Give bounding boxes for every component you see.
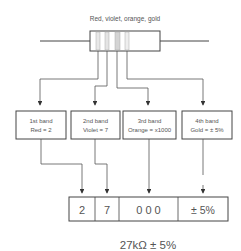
band-1-value: Red = 2 [30, 127, 52, 133]
band-box-1 [16, 111, 66, 139]
band-box-4 [182, 111, 232, 139]
result-value: 27kΩ ± 5% [120, 239, 176, 251]
result-digit-2: 7 [104, 204, 110, 216]
band-2 [105, 32, 109, 50]
band-connectors [40, 51, 203, 105]
result-tolerance: ± 5% [191, 204, 215, 216]
result-multiplier: 0 0 0 [136, 204, 160, 216]
resistor-color-code-diagram: Red, violet, orange, gold 1st band Red =… [0, 0, 241, 251]
band-3 [115, 32, 120, 50]
band-boxes: 1st band Red = 2 2nd band Violet = 7 3rd… [16, 111, 232, 139]
band-1-label: 1st band [29, 118, 52, 124]
band-4-value: Gold = ± 5% [190, 127, 224, 133]
result-connectors [41, 139, 203, 193]
band-box-3 [123, 111, 176, 139]
band-4 [125, 32, 129, 50]
band-2-label: 2nd band [83, 118, 108, 124]
band-3-label: 3rd band [138, 118, 162, 124]
band-3-value: Orange = x1000 [128, 127, 172, 133]
result-table: 2 7 0 0 0 ± 5% [69, 197, 228, 221]
resistor [40, 31, 209, 51]
diagram-title: Red, violet, orange, gold [90, 15, 161, 23]
band-box-2 [71, 111, 120, 139]
band-4-label: 4th band [195, 118, 218, 124]
band-1 [96, 32, 100, 50]
band-2-value: Violet = 7 [83, 127, 109, 133]
result-digit-1: 2 [79, 204, 85, 216]
